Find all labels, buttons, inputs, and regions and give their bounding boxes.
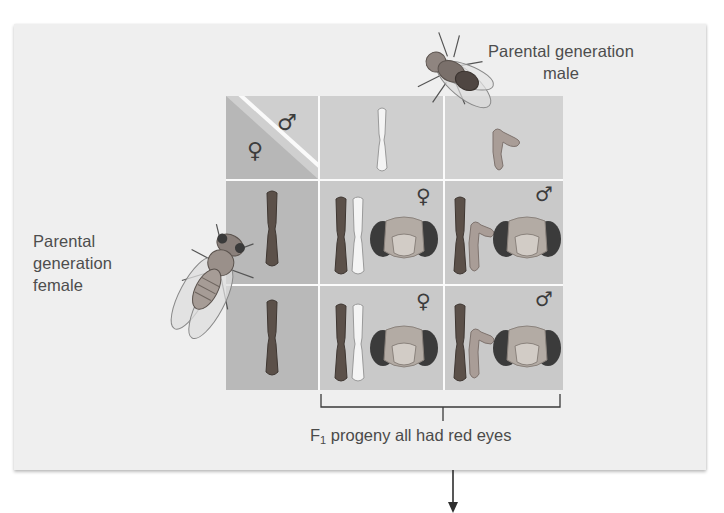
progeny-cell-male-2: ♂ [445, 286, 563, 390]
progeny-cell-female-2: ♀ [320, 286, 443, 390]
label-line: male [488, 62, 634, 84]
parental-female-label: Parental generation female [33, 230, 112, 296]
x-chromosome-dark-icon [262, 298, 282, 378]
corner-cell: ♀ ♂ [226, 96, 318, 179]
female-symbol-icon: ♀ [416, 185, 431, 207]
caption-prefix: F [310, 426, 320, 444]
female-fly-illustration-icon [158, 218, 262, 348]
punnett-square: ♀ ♂ ♀ ♂ [226, 96, 563, 390]
male-symbol-icon: ♂ [535, 288, 553, 310]
red-eye-fly-head-icon [370, 207, 438, 265]
parental-male-label: Parental generation male [488, 40, 634, 84]
label-line: generation [33, 252, 112, 274]
down-arrow-icon [446, 470, 460, 513]
grid-divider [443, 96, 445, 390]
male-symbol-icon: ♂ [535, 183, 553, 205]
female-symbol-icon: ♀ [247, 140, 263, 162]
red-eye-fly-head-icon [370, 316, 438, 374]
male-symbol-icon: ♂ [277, 112, 297, 134]
grid-divider [318, 96, 320, 390]
x-chromosome-white-icon [372, 106, 392, 174]
x-chromosome-dark-icon [262, 189, 282, 269]
y-chromosome-icon [485, 126, 525, 174]
xy-chromosomes-icon [451, 302, 497, 384]
xy-chromosomes-icon [451, 195, 497, 277]
grid-divider [226, 284, 563, 286]
label-line: Parental generation [488, 40, 634, 62]
red-eye-fly-head-icon [493, 316, 561, 374]
xx-chromosomes-icon [332, 195, 368, 277]
grid-divider [226, 179, 563, 181]
label-line: female [33, 274, 112, 296]
f1-progeny-caption: F1 progeny all had red eyes [310, 426, 512, 446]
label-line: Parental [33, 230, 112, 252]
female-symbol-icon: ♀ [416, 290, 431, 312]
red-eye-fly-head-icon [493, 207, 561, 265]
progeny-cell-male-1: ♂ [445, 181, 563, 284]
xx-chromosomes-icon [332, 302, 368, 384]
caption-text: progeny all had red eyes [326, 426, 511, 444]
progeny-cell-female-1: ♀ [320, 181, 443, 284]
male-fly-illustration-icon [402, 30, 502, 120]
progeny-bracket [320, 394, 561, 422]
